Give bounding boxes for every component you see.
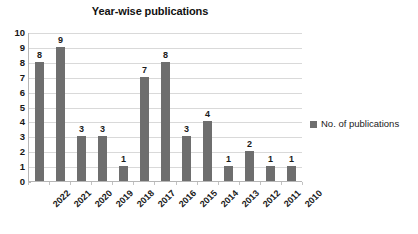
y-tick-label-0: 0 — [20, 177, 25, 187]
bar-value-label: 8 — [37, 51, 42, 60]
bar[interactable] — [182, 136, 191, 181]
legend-swatch-icon — [310, 121, 317, 128]
legend-label: No. of publications — [321, 119, 399, 129]
bar-value-label: 3 — [184, 125, 189, 134]
bar[interactable] — [56, 47, 65, 181]
x-tick-mark — [302, 182, 303, 185]
x-tick-mark — [133, 182, 134, 185]
bar-slot: 8 — [155, 33, 176, 181]
x-tick-label-2020: 2020 — [93, 188, 114, 209]
bar-slot: 1 — [218, 33, 239, 181]
y-tick-label-9: 9 — [20, 43, 25, 53]
y-tick-label-10: 10 — [14, 28, 25, 38]
x-tick-label-2021: 2021 — [71, 188, 92, 209]
legend: No. of publications — [310, 119, 399, 129]
bar-value-label: 9 — [58, 36, 63, 45]
x-tick-label-2015: 2015 — [198, 188, 219, 209]
bar-value-label: 3 — [100, 125, 105, 134]
bar[interactable] — [161, 62, 170, 181]
x-tick-mark — [197, 182, 198, 185]
bar[interactable] — [224, 166, 233, 181]
bar-value-label: 1 — [268, 155, 273, 164]
bar-slot: 1 — [113, 33, 134, 181]
x-tick-label-2011: 2011 — [282, 188, 303, 209]
x-tick-mark — [154, 182, 155, 185]
y-tick-label-2: 2 — [20, 147, 25, 157]
y-tick-label-4: 4 — [20, 117, 25, 127]
chart-title: Year-wise publications — [0, 5, 300, 17]
x-tick-mark — [91, 182, 92, 185]
bar-value-label: 3 — [79, 125, 84, 134]
plot-area: 8933178341211 — [28, 33, 302, 182]
x-tick-mark — [281, 182, 282, 185]
y-tick-label-7: 7 — [20, 73, 25, 83]
x-tick-label-2013: 2013 — [240, 188, 261, 209]
x-tick-label-2016: 2016 — [177, 188, 198, 209]
bar-chart: Year-wise publications 109876543210 8933… — [0, 0, 418, 234]
x-tick-mark — [218, 182, 219, 185]
y-tick-label-1: 1 — [20, 162, 25, 172]
bar-slot: 4 — [197, 33, 218, 181]
x-tick-label-2014: 2014 — [219, 188, 240, 209]
bar-value-label: 2 — [247, 140, 252, 149]
x-tick-mark — [260, 182, 261, 185]
x-tick-label-2018: 2018 — [135, 188, 156, 209]
x-tick-label-2022: 2022 — [50, 188, 71, 209]
x-tick-label-2010: 2010 — [303, 188, 324, 209]
bar[interactable] — [98, 136, 107, 181]
y-tick-label-3: 3 — [20, 132, 25, 142]
x-tick-mark — [112, 182, 113, 185]
bar-value-label: 4 — [205, 110, 210, 119]
y-tick-label-8: 8 — [20, 58, 25, 68]
bar-slot: 3 — [92, 33, 113, 181]
x-axis: 2022202120202019201820172016201520142013… — [28, 186, 302, 230]
bars-layer: 8933178341211 — [29, 33, 302, 181]
y-tick-label-5: 5 — [20, 103, 25, 113]
bar[interactable] — [77, 136, 86, 181]
x-tick-mark — [28, 182, 29, 185]
bar[interactable] — [203, 121, 212, 181]
bar-value-label: 1 — [289, 155, 294, 164]
x-tick-mark — [70, 182, 71, 185]
bar-slot: 9 — [50, 33, 71, 181]
x-tick-label-2012: 2012 — [261, 188, 282, 209]
x-tick-label-2017: 2017 — [156, 188, 177, 209]
x-tick-label-2019: 2019 — [114, 188, 135, 209]
bar-value-label: 1 — [121, 155, 126, 164]
y-tick-label-6: 6 — [20, 88, 25, 98]
x-tick-mark — [176, 182, 177, 185]
bar-slot: 3 — [176, 33, 197, 181]
bar-slot: 1 — [281, 33, 302, 181]
bar-value-label: 7 — [142, 66, 147, 75]
bar[interactable] — [245, 151, 254, 181]
bar[interactable] — [140, 77, 149, 181]
bar[interactable] — [35, 62, 44, 181]
bar-slot: 2 — [239, 33, 260, 181]
bar-slot: 8 — [29, 33, 50, 181]
y-axis: 109876543210 — [0, 33, 25, 182]
bar-value-label: 1 — [226, 155, 231, 164]
x-tick-mark — [239, 182, 240, 185]
bar-value-label: 8 — [163, 51, 168, 60]
bar[interactable] — [266, 166, 275, 181]
bar-slot: 1 — [260, 33, 281, 181]
bar-slot: 3 — [71, 33, 92, 181]
bar-slot: 7 — [134, 33, 155, 181]
bar[interactable] — [287, 166, 296, 181]
bar[interactable] — [119, 166, 128, 181]
x-tick-mark — [49, 182, 50, 185]
